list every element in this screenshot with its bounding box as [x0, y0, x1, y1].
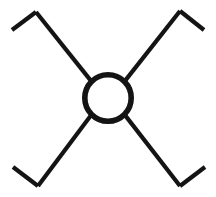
- figure-background: [0, 0, 216, 197]
- figure-canvas: [0, 0, 216, 197]
- symbol-figure: [0, 0, 216, 197]
